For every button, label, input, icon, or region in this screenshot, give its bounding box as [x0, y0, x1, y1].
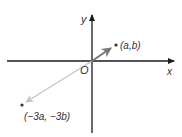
vector-arrow	[92, 48, 111, 61]
y-axis-label: y	[80, 13, 88, 25]
origin-label: O	[80, 64, 89, 76]
point-neg3a-neg3b-label: (−3a, −3b)	[24, 111, 70, 122]
x-axis-label: x	[166, 66, 173, 77]
point-neg3a-neg3b	[20, 103, 23, 106]
point-a-b-label: (a,b)	[120, 40, 141, 51]
coordinate-diagram: y x O (a,b) (−3a, −3b)	[0, 0, 182, 137]
point-a-b	[114, 43, 117, 46]
